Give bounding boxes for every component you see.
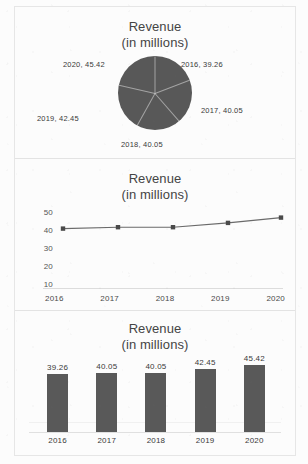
pie-label-2019: 2019, 42.45 [37,114,79,123]
bar-chart-panel: Revenue (in millions) 39.26 40.05 [15,311,295,455]
pie-slice-divider [137,93,156,126]
line-x-label-2017: 2017 [100,294,119,303]
bar-column-2018: 40.05 [133,354,179,432]
line-y-axis: 50 40 30 20 10 [27,208,53,282]
pie-slice-divider [119,84,155,93]
scanned-page: Revenue (in millions) 2016, 39.26 2017, … [0,0,308,464]
bar-x-label-2019: 2019 [182,436,228,445]
pie-slice-divider [155,93,180,122]
bar-x-label-2020: 2020 [231,436,277,445]
pie-chart-panel: Revenue (in millions) 2016, 39.26 2017, … [15,7,295,159]
line-series-graphic [55,206,285,284]
bar-value-2020: 45.42 [244,354,265,363]
line-title-line2: (in millions) [15,187,295,203]
pie-chart-title: Revenue (in millions) [15,7,295,52]
bar-series-graphic: 39.26 40.05 40.05 42.45 [33,354,279,432]
bar-x-label-2016: 2016 [35,436,81,445]
bar-column-2020: 45.42 [231,354,277,432]
bar-value-2019: 42.45 [195,358,216,367]
pie-plot-area: 2016, 39.26 2017, 40.05 2018, 40.05 2019… [15,52,295,152]
bar-chart-title: Revenue (in millions) [15,311,295,354]
bar-title-line1: Revenue [15,321,295,337]
line-x-label-2020: 2020 [266,294,285,303]
bar-column-2019: 42.45 [182,354,228,432]
pie-slice-divider [155,56,156,93]
charts-frame: Revenue (in millions) 2016, 39.26 2017, … [14,6,296,456]
line-chart-panel: Revenue (in millions) 50 40 30 20 10 [15,159,295,311]
bar-column-2017: 40.05 [84,354,130,432]
pie-slice-divider [155,79,190,93]
pie-title-line2: (in millions) [15,35,295,51]
bar-title-line2: (in millions) [15,337,295,353]
line-x-axis-line [43,288,283,289]
line-y-tick-30: 30 [44,244,53,253]
line-chart-title: Revenue (in millions) [15,159,295,204]
bar-rect-2017 [96,373,117,432]
bar-value-2018: 40.05 [145,362,166,371]
pie-title-line1: Revenue [15,19,295,35]
pie-label-2016: 2016, 39.26 [181,60,223,69]
bar-value-2016: 39.26 [47,363,68,372]
bar-x-axis-line [29,432,281,433]
line-y-tick-50: 50 [44,208,53,217]
bar-rect-2020 [244,365,265,432]
line-x-label-2019: 2019 [211,294,230,303]
pie-label-2018: 2018, 40.05 [121,140,163,149]
bar-column-2016: 39.26 [35,354,81,432]
line-x-label-2018: 2018 [156,294,175,303]
line-x-label-2016: 2016 [45,294,64,303]
line-plot-area: 50 40 30 20 10 2016 2017 [15,204,295,308]
line-y-tick-20: 20 [44,262,53,271]
bar-rect-2019 [195,369,216,432]
bar-x-label-2017: 2017 [84,436,130,445]
bar-x-axis-labels: 2016 2017 2018 2019 2020 [33,436,279,445]
pie-label-2017: 2017, 40.05 [201,106,243,115]
bar-plot-area: 39.26 40.05 40.05 42.45 [15,354,295,452]
line-x-axis-labels: 2016 2017 2018 2019 2020 [45,294,285,303]
bar-rect-2016 [47,374,68,432]
bar-rect-2018 [145,373,166,432]
bar-value-2017: 40.05 [96,362,117,371]
line-title-line1: Revenue [15,171,295,187]
bar-x-label-2018: 2018 [133,436,179,445]
line-y-tick-40: 40 [44,226,53,235]
pie-label-2020: 2020, 45.42 [63,60,105,69]
